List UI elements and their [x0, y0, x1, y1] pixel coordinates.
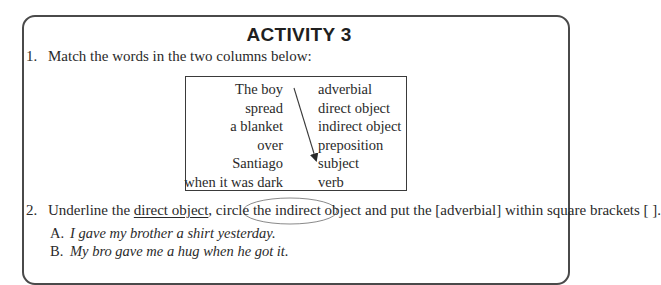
right-word[interactable]: adverbial — [318, 80, 401, 99]
left-word[interactable]: over — [184, 136, 283, 155]
right-word[interactable]: direct object — [318, 99, 401, 118]
right-word[interactable]: preposition — [318, 136, 401, 155]
left-word[interactable]: The boy — [184, 80, 283, 99]
question-1: 1.Match the words in the two columns bel… — [26, 48, 312, 65]
right-column: adverbial direct object indirect object … — [318, 80, 401, 192]
left-word[interactable]: when it was dark — [184, 173, 283, 192]
question-text-part: Underline the — [48, 202, 134, 218]
right-word[interactable]: verb — [318, 173, 401, 192]
question-text: Match the words in the two columns below… — [48, 48, 312, 64]
activity-title: ACTIVITY 3 — [0, 24, 598, 46]
right-word[interactable]: indirect object — [318, 117, 401, 136]
right-word[interactable]: subject — [318, 154, 401, 173]
underlined-term: direct object — [134, 202, 209, 218]
question-number: 1. — [26, 48, 48, 65]
left-word[interactable]: a blanket — [184, 117, 283, 136]
sentence-b: B.My bro gave me a hug when he got it. — [50, 243, 289, 260]
sentence-letter: B. — [50, 243, 70, 260]
left-word[interactable]: spread — [184, 99, 283, 118]
question-text-part: and put the [adverbial] within square br… — [361, 202, 661, 218]
sentence-text[interactable]: My bro gave me a hug when he got it. — [70, 243, 289, 259]
sentence-a: A.I gave my brother a shirt yesterday. — [50, 225, 276, 242]
question-text-part: , circle the — [208, 202, 275, 218]
sentence-letter: A. — [50, 225, 70, 242]
matching-table: The boy spread a blanket over Santiago w… — [185, 76, 407, 191]
circled-term: indirect object — [275, 202, 361, 218]
sentence-text[interactable]: I gave my brother a shirt yesterday. — [70, 225, 276, 241]
left-word[interactable]: Santiago — [184, 154, 283, 173]
left-column: The boy spread a blanket over Santiago w… — [184, 80, 283, 192]
question-number: 2. — [26, 202, 48, 219]
question-2: 2.Underline the direct object, circle th… — [26, 202, 661, 219]
